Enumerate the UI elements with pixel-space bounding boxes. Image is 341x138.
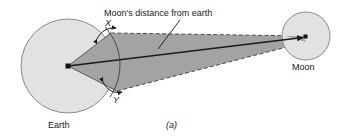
moon-center-dot: [304, 35, 308, 39]
figure-caption: (a): [166, 121, 177, 130]
label-moon: Moon: [292, 63, 315, 72]
label-earth: Earth: [48, 121, 70, 130]
figure-diagram-svg: [0, 0, 341, 138]
label-angle-y: Y: [113, 96, 119, 105]
earth-center-dot: [66, 64, 71, 69]
label-angle-x: X: [105, 19, 111, 28]
label-moons-distance-from-earth: Moon's distance from earth: [104, 9, 212, 18]
moon-distance-figure: Moon's distance from earth Earth Moon X …: [0, 0, 341, 138]
